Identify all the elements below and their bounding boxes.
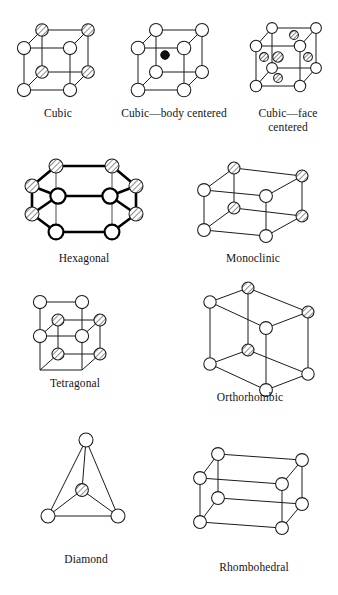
lattice-cubic [14,18,106,96]
crystal-lattice-figure: Cubic Cubic—body centered [0,0,338,595]
lattice-orthorhombic [192,286,318,392]
lattice-diamond [36,432,136,528]
caption-cubic-body-centered: Cubic—body centered [110,106,238,120]
caption-cubic: Cubic [6,106,110,120]
caption-tetragonal: Tetragonal [20,376,130,390]
caption-orthorhombic: Orthorhombic [190,390,310,404]
caption-cubic-face-centered: Cubic—face centered [240,106,336,134]
caption-rhombohedral: Rhombohedral [190,560,318,574]
lattice-rhombohedral [182,440,320,536]
lattice-cubic-face-centered [246,18,334,96]
lattice-cubic-body-centered [128,18,220,96]
caption-diamond: Diamond [36,552,136,566]
caption-hexagonal: Hexagonal [30,251,138,265]
lattice-hexagonal [18,152,150,244]
lattice-tetragonal [30,292,122,370]
lattice-monoclinic [190,158,312,246]
caption-monoclinic: Monoclinic [198,251,308,265]
